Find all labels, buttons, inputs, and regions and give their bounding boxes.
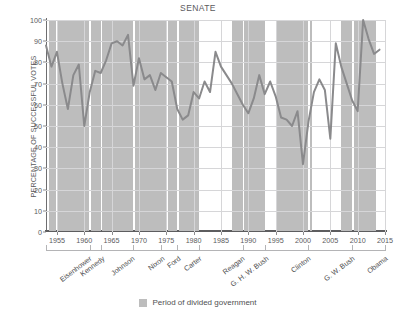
- x-tick-label: 2000: [295, 236, 311, 245]
- president-axis-tick: [101, 245, 102, 251]
- president-label: Clinton: [289, 254, 312, 275]
- y-tick-label: 90: [34, 37, 42, 46]
- y-tick-label: 100: [30, 16, 42, 25]
- chart-legend: Period of divided government: [0, 298, 396, 307]
- x-tick-mark: [194, 232, 195, 235]
- x-tick-mark: [330, 232, 331, 235]
- y-tick-label: 10: [34, 206, 42, 215]
- x-tick-mark: [358, 232, 359, 235]
- president-axis-tick: [243, 245, 244, 251]
- y-tick-label: 30: [34, 164, 42, 173]
- president-axis-tick: [90, 245, 91, 251]
- series-layer: [46, 20, 385, 232]
- legend-swatch-divided-government: [139, 299, 147, 307]
- x-tick-label: 2005: [322, 236, 338, 245]
- x-tick-mark: [139, 232, 140, 235]
- y-tick-label: 50: [34, 122, 42, 131]
- president-label: G. W. Bush: [322, 254, 356, 283]
- x-tick-mark: [84, 232, 85, 235]
- x-tick-label: 1995: [268, 236, 284, 245]
- y-tick-label: 70: [34, 79, 42, 88]
- x-tick-mark: [276, 232, 277, 235]
- legend-label-divided-government: Period of divided government: [152, 298, 256, 307]
- y-tick-label: 80: [34, 58, 42, 67]
- president-axis-tick: [265, 245, 266, 251]
- x-tick-label: 1960: [76, 236, 92, 245]
- x-tick-label: 1985: [213, 236, 229, 245]
- x-tick-label: 1980: [186, 236, 202, 245]
- x-tick-mark: [112, 232, 113, 235]
- president-axis-tick: [385, 245, 386, 251]
- y-tick-label: 60: [34, 100, 42, 109]
- x-tick-mark: [385, 232, 386, 235]
- x-tick-label: 1955: [49, 236, 65, 245]
- president-axis-tick: [161, 245, 162, 251]
- gridline-vertical: [385, 20, 386, 232]
- plot-area: 0102030405060708090100195519601965197019…: [46, 20, 385, 232]
- president-axis-tick: [177, 245, 178, 251]
- president-axis-tick: [199, 245, 200, 251]
- x-tick-label: 1990: [240, 236, 256, 245]
- president-label: Ford: [165, 254, 182, 270]
- president-label: Carter: [182, 254, 203, 273]
- president-axis-tick: [133, 245, 134, 251]
- chart-title: SENATE: [0, 3, 396, 13]
- president-axis-tick: [46, 245, 47, 251]
- x-tick-mark: [57, 232, 58, 235]
- x-tick-label: 2010: [350, 236, 366, 245]
- x-tick-label: 2015: [377, 236, 393, 245]
- president-axis-rule: [46, 250, 385, 251]
- x-tick-label: 1970: [131, 236, 147, 245]
- senate-chart: SENATE PERCENTAGE OF SUCCESSFUL VOTES 01…: [0, 0, 396, 315]
- x-tick-label: 1965: [104, 236, 120, 245]
- y-tick-label: 0: [38, 228, 42, 237]
- president-label: Nixon: [146, 254, 166, 272]
- y-tick-label: 20: [34, 185, 42, 194]
- x-tick-mark: [221, 232, 222, 235]
- series-line: [46, 20, 380, 164]
- x-tick-mark: [303, 232, 304, 235]
- president-label: Obama: [365, 254, 389, 275]
- x-tick-mark: [248, 232, 249, 235]
- president-label: Johnson: [110, 254, 137, 278]
- president-axis-tick: [352, 245, 353, 251]
- x-tick-mark: [166, 232, 167, 235]
- x-tick-label: 1975: [158, 236, 174, 245]
- y-tick-label: 40: [34, 143, 42, 152]
- president-axis-tick: [308, 245, 309, 251]
